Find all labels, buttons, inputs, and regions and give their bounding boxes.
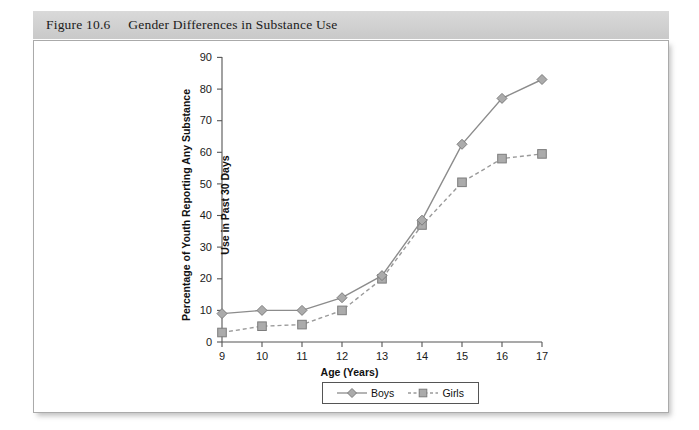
diamond-marker-icon (337, 387, 367, 399)
figure-caption-text: Figure 10.6 Gender Differences in Substa… (33, 17, 338, 33)
legend-entry-girls: Girls (408, 387, 464, 399)
x-tick-label-14: 14 (410, 350, 434, 362)
y-axis-title-line1: Percentage of Youth Reporting Any Substa… (180, 55, 193, 355)
figure-container: Figure 10.6 Gender Differences in Substa… (0, 0, 699, 430)
x-tick-label-12: 12 (330, 350, 354, 362)
y-axis-title: Percentage of Youth Reporting Any Substa… (154, 55, 258, 355)
x-axis-title: Age (Years) (0, 366, 699, 378)
legend-label-boys: Boys (371, 387, 394, 399)
figure-caption-bar: Figure 10.6 Gender Differences in Substa… (33, 11, 669, 39)
x-tick-label-11: 11 (290, 350, 314, 362)
chart-axes (217, 57, 542, 347)
x-tick-label-13: 13 (370, 350, 394, 362)
series-girls (218, 150, 547, 337)
legend-label-girls: Girls (442, 387, 464, 399)
x-tick-label-15: 15 (450, 350, 474, 362)
square-marker-icon (408, 387, 438, 399)
x-tick-label-16: 16 (490, 350, 514, 362)
chart-legend: Boys Girls (322, 382, 479, 404)
legend-entry-boys: Boys (337, 387, 394, 399)
chart-panel: 90 80 70 60 50 40 30 20 10 0 9 10 11 12 … (33, 40, 669, 413)
x-tick-label-17: 17 (530, 350, 554, 362)
y-axis-title-line2: Use in Past 30 Days (219, 55, 232, 355)
